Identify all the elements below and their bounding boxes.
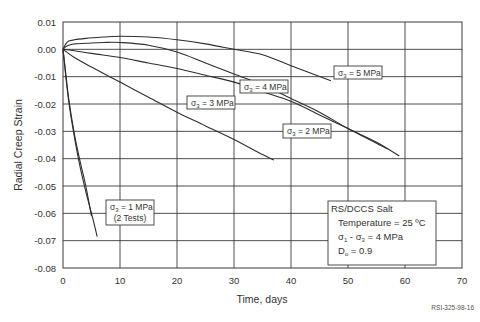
y-tick-label: -0.08 — [34, 263, 56, 274]
label-sigma-5: σ3 = 5 MPa — [334, 66, 382, 79]
figure-id: RSI-325-98-16 — [431, 304, 474, 311]
series-curve — [63, 49, 274, 160]
label-sigma-3: σ3 = 3 MPa — [187, 96, 235, 109]
y-tick-label: -0.04 — [34, 153, 56, 164]
x-tick-label: 10 — [115, 275, 126, 286]
y-tick-label: -0.03 — [34, 126, 56, 137]
info-stress: σ1 - σ3 = 4 MPa — [338, 231, 404, 243]
y-tick-label: 0.00 — [38, 44, 57, 55]
x-tick-labels: 010203040506070 — [60, 275, 467, 286]
x-tick-label: 20 — [172, 275, 183, 286]
info-box: RS/DCCS Salt Temperature = 25 ºC σ1 - σ3… — [328, 201, 436, 265]
y-tick-label: -0.06 — [34, 208, 56, 219]
x-tick-label: 50 — [343, 275, 354, 286]
info-temperature: Temperature = 25 ºC — [338, 217, 426, 228]
y-axis-label: Radial Creep Strain — [12, 99, 24, 191]
x-tick-label: 60 — [400, 275, 411, 286]
info-title: RS/DCCS Salt — [331, 203, 393, 214]
x-tick-label: 0 — [60, 275, 65, 286]
y-tick-labels: 0.010.00-0.01-0.02-0.03-0.04-0.05-0.06-0… — [34, 17, 56, 274]
y-tick-label: -0.05 — [34, 181, 56, 192]
series-curve — [63, 49, 97, 236]
label-sigma-1: σ3 = 1 MPa (2 Tests) — [106, 200, 154, 225]
y-tick-label: -0.07 — [34, 235, 56, 246]
info-damage: Do = 0.9 — [338, 245, 372, 257]
label-sigma-2: σ3 = 2 MPa — [283, 124, 331, 138]
x-axis-label: Time, days — [237, 293, 288, 305]
x-tick-label: 40 — [286, 275, 297, 286]
y-tick-label: -0.02 — [34, 99, 56, 110]
x-tick-label: 30 — [229, 275, 240, 286]
y-tick-label: -0.01 — [34, 71, 56, 82]
x-tick-label: 70 — [457, 275, 468, 286]
y-tick-label: 0.01 — [38, 17, 57, 28]
label-sigma-4: σ3 = 4 MPa — [240, 80, 288, 93]
creep-strain-chart: 0.010.00-0.01-0.02-0.03-0.04-0.05-0.06-0… — [0, 0, 480, 322]
series-curve — [63, 49, 92, 216]
svg-text:(2 Tests): (2 Tests) — [114, 213, 147, 223]
